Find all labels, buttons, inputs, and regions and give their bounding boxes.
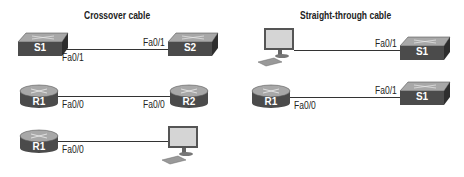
crossover-cable-r1-pc (58, 141, 170, 142)
switch-s2: S2 (168, 33, 218, 56)
port-label: Fa0/0 (62, 144, 84, 155)
crossover-cable-s1-s2 (62, 49, 170, 50)
straight-cable-pc-s1 (294, 50, 402, 51)
router-r1-row3: R1 (20, 129, 58, 153)
crossover-title: Crossover cable (84, 10, 150, 21)
router-r1-right: R1 (252, 84, 290, 108)
port-label: Fa0/0 (143, 99, 165, 110)
router-r2: R2 (170, 84, 208, 108)
port-label: Fa0/1 (375, 85, 397, 96)
pc-right (258, 28, 298, 68)
straight-through-title: Straight-through cable (300, 10, 391, 21)
pc-icon (258, 28, 298, 68)
port-label: Fa0/1 (375, 38, 397, 49)
router-r1: R1 (20, 84, 58, 108)
crossover-cable-r1-r2 (58, 96, 170, 97)
pc-icon (162, 126, 202, 166)
switch-s1-right: S1 (400, 37, 450, 60)
switch-s1: S1 (18, 33, 68, 56)
port-label: Fa0/0 (62, 99, 84, 110)
port-label: Fa0/1 (62, 52, 84, 63)
port-label: Fa0/0 (294, 100, 316, 111)
port-label: Fa0/1 (143, 37, 165, 48)
straight-cable-r1-s1 (290, 97, 402, 98)
switch-s1-right-row2: S1 (400, 82, 450, 105)
pc (162, 126, 202, 166)
